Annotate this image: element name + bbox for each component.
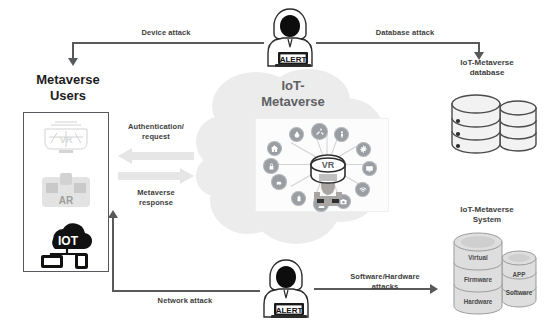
node-car-icon[interactable] xyxy=(271,174,287,190)
node-wifi-icon[interactable] xyxy=(355,182,370,197)
node-home-icon[interactable] xyxy=(267,141,282,156)
db-title-line2: database xyxy=(432,68,542,78)
authentication-request-label: Authentication/ request xyxy=(112,122,200,142)
attacker-bottom: ALERT xyxy=(258,257,314,323)
database-title: IoT-Metaverse database xyxy=(432,58,542,78)
software-hardware-label: Software/Hardware attacks xyxy=(330,272,440,292)
system-label-virtual: Virtual xyxy=(450,254,506,261)
node-battery-icon[interactable] xyxy=(291,191,306,206)
page-title: Metaverse Users xyxy=(8,72,128,105)
system-label-software: Software xyxy=(496,289,542,296)
device-attack-arrowhead xyxy=(68,58,78,66)
response-label-line2: response xyxy=(112,198,200,208)
auth-label-line1: Authentication/ xyxy=(112,122,200,132)
node-gear-icon[interactable] xyxy=(356,142,371,157)
ar-icon: AR xyxy=(38,171,94,215)
cloud-title-line1: IoT- xyxy=(243,78,343,94)
response-label-line1: Metaverse xyxy=(112,188,200,198)
network-attack-label: Network attack xyxy=(130,296,240,306)
metaverse-users-panel: VR AR IOT xyxy=(23,112,109,272)
system-label-app: APP xyxy=(498,271,540,278)
vr-hub: VR xyxy=(305,152,349,178)
attacker-top: ALERT xyxy=(262,6,318,72)
db-title-line1: IoT-Metaverse xyxy=(432,58,542,68)
users-title-line1: Metaverse xyxy=(8,72,128,88)
svg-text:AR: AR xyxy=(59,195,74,206)
svg-text:ALERT: ALERT xyxy=(276,306,303,315)
database-attack-label: Database attack xyxy=(350,28,460,38)
system-title: IoT-Metaverse System xyxy=(432,205,542,225)
network-attack-arrowhead xyxy=(108,210,118,218)
iot-icon: IOT xyxy=(35,217,97,273)
metaverse-response-arrow xyxy=(118,168,194,188)
sw-hw-label-line1: Software/Hardware xyxy=(330,272,440,282)
svg-text:ALERT: ALERT xyxy=(280,55,307,64)
system-label-hardware: Hardware xyxy=(450,298,506,305)
sw-hw-label-line2: attacks xyxy=(330,282,440,292)
cloud-title: IoT- Metaverse xyxy=(243,78,343,111)
iot-metaverse-system-icon: Virtual Firmware Hardware APP Software xyxy=(444,232,548,332)
auth-label-line2: request xyxy=(112,132,200,142)
iot-metaverse-database-icon xyxy=(444,88,544,168)
node-lock-icon[interactable] xyxy=(263,158,279,174)
svg-text:IOT: IOT xyxy=(58,234,79,248)
svg-text:VR: VR xyxy=(322,160,335,170)
device-attack-label: Device attack xyxy=(106,28,226,38)
vr-icon: VR xyxy=(37,119,95,163)
vr-headset-icon: VR xyxy=(305,152,351,208)
network-attack-line xyxy=(112,290,260,292)
svg-text:VR: VR xyxy=(60,135,73,145)
device-attack-line xyxy=(72,42,264,44)
users-title-line2: Users xyxy=(8,88,128,104)
authentication-request-arrow xyxy=(118,148,194,168)
network-attack-line-vert xyxy=(112,218,114,290)
node-person-icon[interactable] xyxy=(334,127,349,142)
database-attack-line xyxy=(316,42,480,44)
cloud-title-line2: Metaverse xyxy=(243,94,343,110)
sys-title-line1: IoT-Metaverse xyxy=(432,205,542,215)
node-water-drop-icon[interactable] xyxy=(289,127,304,142)
metaverse-response-label: Metaverse response xyxy=(112,188,200,208)
sys-title-line2: System xyxy=(432,215,542,225)
database-attack-arrowhead xyxy=(474,52,484,60)
node-monitor-icon[interactable] xyxy=(362,161,377,176)
node-tools-icon[interactable] xyxy=(311,123,328,140)
